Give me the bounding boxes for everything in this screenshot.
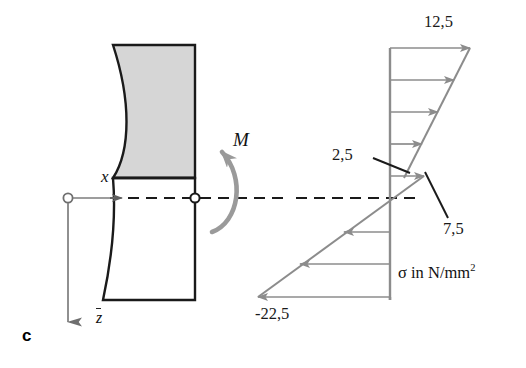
leader-line-7-5 [425, 172, 448, 218]
beam-upper-shaded-section [113, 45, 195, 178]
stress-unit-label: σ in N/mm2 [398, 263, 475, 281]
stress-value-label-interface-lower: 7,5 [443, 221, 464, 238]
stress-value-label-top: 12,5 [424, 14, 453, 31]
moment-label: M [233, 130, 249, 149]
stress-unit-text: σ in N/mm [398, 263, 470, 282]
stress-value-label-bottom: -22,5 [255, 306, 289, 323]
section-centroid-marker [190, 193, 199, 202]
stress-envelope-upper [404, 48, 470, 178]
coordinate-origin-marker [63, 193, 72, 202]
bending-stress-figure: 12,5 2,5 7,5 -22,5 M x z σ in N/mm2 c [0, 0, 526, 368]
z-axis-label-text: z [96, 310, 102, 326]
leader-line-2-5 [373, 158, 410, 173]
stress-arrow-group-lower [258, 232, 390, 297]
beam-lower-unshaded-section [103, 178, 195, 300]
moment-curved-arrow [212, 152, 237, 232]
stress-unit-exponent: 2 [470, 262, 475, 273]
panel-label: c [22, 327, 31, 344]
stress-value-label-interface-upper: 2,5 [332, 147, 353, 164]
z-axis-label: z [96, 310, 102, 326]
stress-arrow-group-upper [390, 48, 470, 176]
x-axis-label: x [101, 168, 109, 185]
